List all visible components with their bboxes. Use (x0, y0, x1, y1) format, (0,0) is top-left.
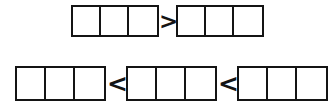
greater-than-operator: > (159, 10, 176, 33)
bar-cell[interactable] (178, 7, 206, 35)
less-than-operator-1: < (106, 71, 126, 96)
bar-model-row2-left[interactable] (15, 66, 106, 101)
bar-model-row2-middle[interactable] (126, 66, 217, 101)
bar-model-row1-left[interactable] (71, 5, 159, 37)
less-than-operator-2: < (217, 71, 237, 96)
comparison-row-1: > (71, 5, 264, 37)
bar-cell[interactable] (101, 7, 129, 35)
bar-cell[interactable] (46, 68, 75, 99)
bar-cell[interactable] (234, 7, 262, 35)
bar-cell[interactable] (186, 68, 215, 99)
comparison-row-2: < < (15, 66, 328, 101)
bar-cell[interactable] (129, 7, 157, 35)
bar-cell[interactable] (73, 7, 101, 35)
bar-cell[interactable] (268, 68, 297, 99)
bar-cell[interactable] (206, 7, 234, 35)
bar-cell[interactable] (157, 68, 186, 99)
bar-cell[interactable] (17, 68, 46, 99)
bar-model-row2-right[interactable] (237, 66, 328, 101)
bar-cell[interactable] (239, 68, 268, 99)
bar-cell[interactable] (297, 68, 326, 99)
bar-model-row1-right[interactable] (176, 5, 264, 37)
bar-cell[interactable] (75, 68, 104, 99)
bar-cell[interactable] (128, 68, 157, 99)
